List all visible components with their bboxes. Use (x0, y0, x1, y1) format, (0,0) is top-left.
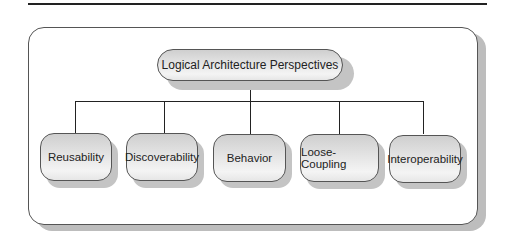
node-label: Behavior (227, 152, 272, 164)
connector-interoperability (423, 101, 424, 134)
node-reusability: Reusability (40, 133, 112, 181)
connector-behavior (250, 101, 251, 134)
node-label: Reusability (48, 151, 104, 163)
node-label: Loose-Coupling (301, 146, 378, 170)
node-behavior: Behavior (213, 134, 286, 182)
node-loose-coupling: Loose-Coupling (300, 134, 379, 182)
connector-discoverability (164, 101, 165, 134)
root-node-label: Logical Architecture Perspectives (162, 58, 339, 72)
node-discoverability: Discoverability (126, 133, 198, 181)
root-node: Logical Architecture Perspectives (157, 49, 343, 81)
connector-reusability (75, 101, 76, 134)
top-rule (28, 3, 487, 5)
node-label: Discoverability (125, 151, 199, 163)
connector-loose-coupling (339, 101, 340, 134)
node-label: Interoperability (387, 153, 462, 165)
node-interoperability: Interoperability (389, 135, 461, 183)
